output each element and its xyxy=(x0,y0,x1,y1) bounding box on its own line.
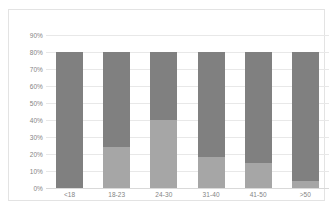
bar-segment-lower[interactable] xyxy=(245,163,272,188)
y-axis-tick-label: 30% xyxy=(30,134,43,141)
bar-slot xyxy=(235,35,282,188)
y-axis-tick-label: 70% xyxy=(30,65,43,72)
bar-segment-lower[interactable] xyxy=(198,157,225,188)
bar-segment-upper[interactable] xyxy=(292,52,319,181)
x-axis-category-label: 24-30 xyxy=(141,191,188,198)
stacked-bar[interactable] xyxy=(103,52,130,188)
stacked-bar[interactable] xyxy=(56,52,83,188)
x-axis-category-label: >50 xyxy=(282,191,329,198)
bar-segment-upper[interactable] xyxy=(198,52,225,157)
x-axis: <1818-2324-3031-4041-50>50 xyxy=(46,191,329,205)
bar-segment-lower[interactable] xyxy=(103,147,130,188)
bar-segment-upper[interactable] xyxy=(56,52,83,188)
stacked-bar[interactable] xyxy=(198,52,225,188)
bar-segment-upper[interactable] xyxy=(103,52,130,147)
y-axis-tick-label: 20% xyxy=(30,151,43,158)
x-axis-category-label: 18-23 xyxy=(93,191,140,198)
axis-baseline xyxy=(46,188,329,189)
bar-slot xyxy=(282,35,329,188)
y-axis: 90%80%70%60%50%40%30%20%10%0% xyxy=(18,35,43,188)
plot-area xyxy=(46,35,329,188)
y-axis-tick-label: 10% xyxy=(30,167,43,174)
stacked-bar[interactable] xyxy=(292,52,319,188)
x-axis-category-label: 41-50 xyxy=(235,191,282,198)
bar-segment-lower[interactable] xyxy=(150,120,177,188)
bar-slot xyxy=(46,35,93,188)
stacked-bar[interactable] xyxy=(150,52,177,188)
bar-group xyxy=(46,35,329,188)
bar-slot xyxy=(188,35,235,188)
y-axis-tick-label: 60% xyxy=(30,83,43,90)
x-axis-category-label: <18 xyxy=(46,191,93,198)
bar-slot xyxy=(141,35,188,188)
stacked-bar[interactable] xyxy=(245,52,272,188)
bar-slot xyxy=(93,35,140,188)
x-axis-category-label: 31-40 xyxy=(188,191,235,198)
bar-segment-upper[interactable] xyxy=(245,52,272,162)
y-axis-tick-label: 50% xyxy=(30,99,43,106)
y-axis-tick-label: 40% xyxy=(30,117,43,124)
bar-segment-lower[interactable] xyxy=(292,181,319,188)
y-axis-tick-label: 80% xyxy=(30,48,43,55)
y-axis-tick-label: 0% xyxy=(33,185,43,192)
y-axis-tick-label: 90% xyxy=(30,32,43,39)
chart-frame: 90%80%70%60%50%40%30%20%10%0% <1818-2324… xyxy=(8,9,325,201)
bar-segment-upper[interactable] xyxy=(150,52,177,120)
